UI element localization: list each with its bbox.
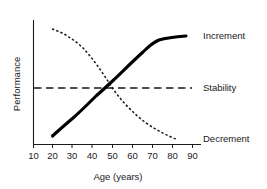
x-tick-label-50: 50: [107, 150, 118, 161]
x-tick-label-80: 80: [167, 150, 178, 161]
chart-svg: 10 20 30 40 50 60 70 80 90 Age (years) P…: [0, 0, 267, 189]
x-axis-title: Age (years): [93, 171, 142, 182]
x-tick-label-40: 40: [87, 150, 98, 161]
x-tick-label-70: 70: [147, 150, 158, 161]
axes-group: [33, 20, 201, 145]
x-tick-label-60: 60: [127, 150, 138, 161]
x-tick-label-20: 20: [47, 150, 58, 161]
increment-curve: [53, 36, 187, 136]
series-label-stability: Stability: [203, 82, 237, 93]
series-label-increment: Increment: [203, 30, 246, 41]
x-tick-labels: 10 20 30 40 50 60 70 80 90: [28, 150, 198, 161]
series-label-decrement: Decrement: [203, 133, 250, 144]
x-tick-label-30: 30: [67, 150, 78, 161]
decrement-curve: [52, 29, 176, 139]
x-tick-label-90: 90: [187, 150, 198, 161]
x-tick-label-10: 10: [28, 150, 39, 161]
performance-vs-age-chart: 10 20 30 40 50 60 70 80 90 Age (years) P…: [0, 0, 267, 189]
y-axis-title: Performance: [11, 57, 22, 111]
